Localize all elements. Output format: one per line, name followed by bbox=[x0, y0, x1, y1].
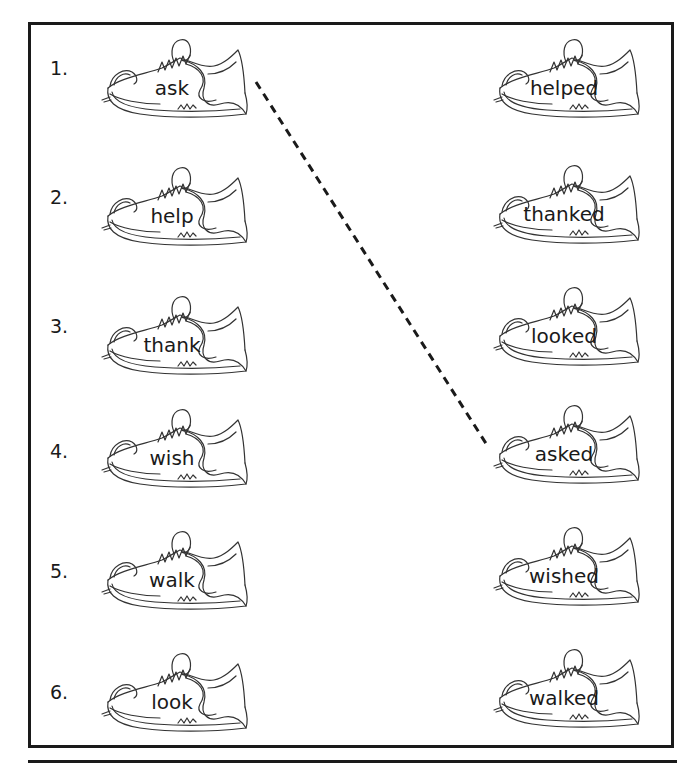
row-number-4: 4. bbox=[50, 440, 68, 462]
shoe-card-walk[interactable]: walk bbox=[100, 530, 250, 610]
shoe-word: helped bbox=[514, 76, 614, 100]
worksheet-frame bbox=[28, 22, 674, 748]
shoe-card-walked[interactable]: walked bbox=[492, 648, 642, 728]
shoe-card-wish[interactable]: wish bbox=[100, 408, 250, 488]
shoe-word: wish bbox=[122, 446, 222, 470]
shoe-card-thank[interactable]: thank bbox=[100, 295, 250, 375]
shoe-card-thanked[interactable]: thanked bbox=[492, 164, 642, 244]
shoe-card-help[interactable]: help bbox=[100, 166, 250, 246]
shoe-card-look[interactable]: look bbox=[100, 652, 250, 732]
shoe-word: walked bbox=[514, 686, 614, 710]
shoe-word: walk bbox=[122, 568, 222, 592]
row-number-5: 5. bbox=[50, 560, 68, 582]
row-number-1: 1. bbox=[50, 57, 68, 79]
shoe-word: thanked bbox=[514, 202, 614, 226]
shoe-card-wished[interactable]: wished bbox=[492, 526, 642, 606]
shoe-word: look bbox=[122, 690, 222, 714]
shoe-word: asked bbox=[514, 442, 614, 466]
row-number-3: 3. bbox=[50, 315, 68, 337]
shoe-card-ask[interactable]: ask bbox=[100, 38, 250, 118]
shoe-word: wished bbox=[514, 564, 614, 588]
shoe-word: help bbox=[122, 204, 222, 228]
row-number-2: 2. bbox=[50, 186, 68, 208]
shoe-card-looked[interactable]: looked bbox=[492, 286, 642, 366]
shoe-word: looked bbox=[514, 324, 614, 348]
shoe-word: ask bbox=[122, 76, 222, 100]
shoe-word: thank bbox=[122, 333, 222, 357]
row-number-6: 6. bbox=[50, 681, 68, 703]
shoe-card-helped[interactable]: helped bbox=[492, 38, 642, 118]
bottom-divider bbox=[28, 760, 677, 763]
shoe-card-asked[interactable]: asked bbox=[492, 404, 642, 484]
